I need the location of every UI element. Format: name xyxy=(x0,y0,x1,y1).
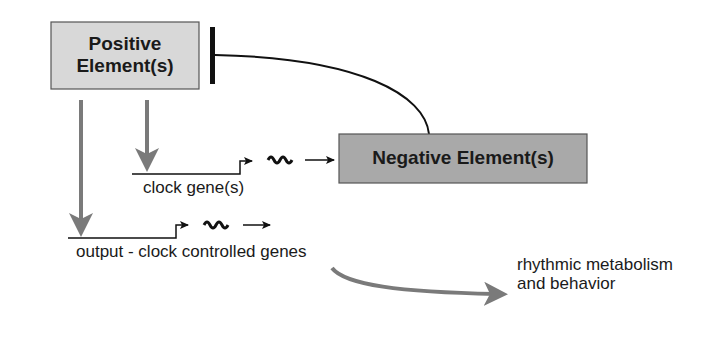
clock-gene-promoter xyxy=(132,161,252,174)
output-promoter xyxy=(68,225,188,238)
positive-element-label-line2: Element(s) xyxy=(51,55,199,77)
clock-gene-mrna-icon xyxy=(268,157,292,163)
output-to-behavior-arrow xyxy=(332,268,496,294)
inhibition-curve xyxy=(215,55,429,134)
rhythmic-behavior-label: rhythmic metabolism and behavior xyxy=(517,255,687,293)
clock-gene-label: clock gene(s) xyxy=(143,178,244,198)
output-genes-label: output - clock controlled genes xyxy=(76,242,307,262)
negative-element-label: Negative Element(s) xyxy=(339,147,587,169)
positive-element-label-line1: Positive xyxy=(51,33,199,55)
output-mrna-icon xyxy=(204,222,228,228)
inhibition-bar xyxy=(210,27,215,84)
positive-element-label: Positive Element(s) xyxy=(51,33,199,77)
